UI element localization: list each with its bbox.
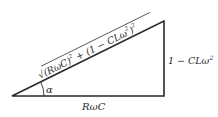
radical-bar <box>41 12 149 66</box>
base-label: RωC <box>81 101 106 112</box>
phasor-triangle-diagram: α RωC 1 − CLω2 √(RωC)2 + (1 − CLω2)2 <box>0 0 218 117</box>
angle-arc <box>41 82 44 96</box>
triangle <box>12 21 164 96</box>
angle-label: α <box>46 84 53 95</box>
svg-text:√(RωC)2 + (1 − CLω2)2: √(RωC)2 + (1 − CLω2)2 <box>36 22 139 81</box>
hypotenuse-label: √(RωC)2 + (1 − CLω2)2 <box>35 12 156 80</box>
svg-text:1 − CLω2: 1 − CLω2 <box>168 54 213 66</box>
vertical-side-label: 1 − CLω2 <box>168 54 213 66</box>
vertical-side-text: 1 − CLω <box>168 55 210 66</box>
vertical-side-exponent: 2 <box>208 54 213 61</box>
